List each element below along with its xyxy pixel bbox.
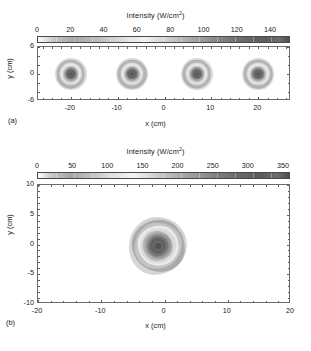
y-tick-minor-right xyxy=(288,280,290,281)
x-tick-minor xyxy=(202,301,203,303)
x-tick-label: 0 xyxy=(162,306,166,315)
x-tick-label: 20 xyxy=(286,306,294,315)
y-tick-minor-right xyxy=(288,92,290,93)
colorbar-title-a: Intensity (W/cm2) xyxy=(0,11,311,20)
colorbar-tick-label: 200 xyxy=(172,161,184,170)
colorbar-tick-label: 140 xyxy=(264,25,276,34)
colorbar-title-b: Intensity (W/cm2) xyxy=(0,147,311,156)
y-tick-right xyxy=(287,274,289,275)
y-tick-minor xyxy=(38,286,40,287)
y-tick-minor xyxy=(38,221,40,222)
y-tick-minor xyxy=(38,298,40,299)
x-tick-minor-top xyxy=(43,47,44,49)
y-tick-label: 0 xyxy=(30,68,34,77)
y-tick-minor-right xyxy=(288,286,290,287)
x-tick-minor xyxy=(52,98,53,100)
x-tick xyxy=(228,300,229,302)
x-tick-label: -10 xyxy=(95,306,105,315)
x-tick-minor-top xyxy=(99,47,100,49)
x-tick-minor-top xyxy=(139,185,140,187)
x-tick-minor-top xyxy=(239,47,240,49)
x-tick-top xyxy=(211,47,212,49)
y-tick-right xyxy=(287,47,289,48)
colorbar-a xyxy=(37,36,290,43)
colorbar-tick-label: 120 xyxy=(231,25,243,34)
y-tick-minor-right xyxy=(288,203,290,204)
x-tick-minor xyxy=(51,301,52,303)
x-tick-minor xyxy=(278,301,279,303)
x-axis-title-a: x (cm) xyxy=(0,119,311,128)
y-tick-minor-right xyxy=(288,262,290,263)
x-tick-minor xyxy=(139,301,140,303)
y-tick-label: 6 xyxy=(30,41,34,50)
x-tick-minor xyxy=(240,301,241,303)
x-tick-minor xyxy=(190,301,191,303)
x-tick xyxy=(71,97,72,99)
y-tick-minor-right xyxy=(288,292,290,293)
x-tick-minor xyxy=(155,98,156,100)
colorbar-tick-label: 100 xyxy=(197,25,209,34)
x-tick-minor xyxy=(266,301,267,303)
plot-area-b xyxy=(37,184,290,303)
colorbar-ticklabels-a: 020406080100120140 xyxy=(37,25,290,34)
x-tick-top xyxy=(165,47,166,49)
x-tick-label: 0 xyxy=(162,103,166,112)
y-tick-minor xyxy=(38,280,40,281)
x-tick-minor xyxy=(286,98,287,100)
x-tick xyxy=(211,97,212,99)
colorbar-tick-label: 80 xyxy=(166,25,174,34)
figure-intensity-maps: Intensity (W/cm2) 020406080100120140 -60… xyxy=(0,0,311,351)
x-tick-minor-top xyxy=(90,47,91,49)
x-tick-minor xyxy=(202,98,203,100)
x-tick-minor-top xyxy=(136,47,137,49)
y-tick-label: 0 xyxy=(30,238,34,247)
x-tick-minor-top xyxy=(277,47,278,49)
y-tick-right xyxy=(287,74,289,75)
x-tick-minor xyxy=(268,98,269,100)
x-ticklabels-b: -20-1001020 xyxy=(37,306,290,316)
x-tick-minor-top xyxy=(253,185,254,187)
panel-label-a: (a) xyxy=(8,116,17,125)
y-tick-minor-right xyxy=(288,239,290,240)
x-tick-minor-top xyxy=(221,47,222,49)
x-tick-top xyxy=(258,47,259,49)
colorbar-title-a-tail: ) xyxy=(182,11,185,20)
y-tick-minor-right xyxy=(288,65,290,66)
colorbar-tick-label: 300 xyxy=(242,161,254,170)
x-tick-minor-top xyxy=(177,185,178,187)
x-tick-minor-top xyxy=(193,47,194,49)
colorbar-b xyxy=(37,172,290,179)
x-tick-minor-top xyxy=(268,47,269,49)
y-tick-minor xyxy=(38,209,40,210)
x-tick-minor-top xyxy=(51,185,52,187)
x-tick-minor-top xyxy=(183,47,184,49)
colorbar-tick-label: 60 xyxy=(133,25,141,34)
y-tick-minor-right xyxy=(288,56,290,57)
x-tick-minor xyxy=(80,98,81,100)
x-tick-minor-top xyxy=(240,185,241,187)
y-tick-minor-right xyxy=(288,191,290,192)
x-tick-minor-top xyxy=(230,47,231,49)
y-tick xyxy=(38,185,40,186)
x-tick-minor-top xyxy=(127,185,128,187)
x-tick-minor xyxy=(99,98,100,100)
x-tick-minor xyxy=(61,98,62,100)
x-tick-minor xyxy=(193,98,194,100)
y-tick-minor-right xyxy=(288,221,290,222)
y-tick-minor-right xyxy=(288,233,290,234)
colorbar-tick-label: 150 xyxy=(136,161,148,170)
x-axis-title-b: x (cm) xyxy=(0,321,311,330)
colorbar-tick-label: 40 xyxy=(100,25,108,34)
y-tick xyxy=(38,274,40,275)
y-tick-label: 10 xyxy=(26,179,34,188)
x-tick-minor-top xyxy=(127,47,128,49)
x-tick-minor-top xyxy=(202,47,203,49)
x-tick-label: -20 xyxy=(32,306,42,315)
x-tick-minor-top xyxy=(266,185,267,187)
x-tick-minor xyxy=(76,301,77,303)
beam-spot-ring xyxy=(155,243,161,249)
y-tick-minor-right xyxy=(288,209,290,210)
panel-label-b: (b) xyxy=(6,318,15,327)
x-tick-minor-top xyxy=(52,47,53,49)
x-tick xyxy=(38,300,39,302)
